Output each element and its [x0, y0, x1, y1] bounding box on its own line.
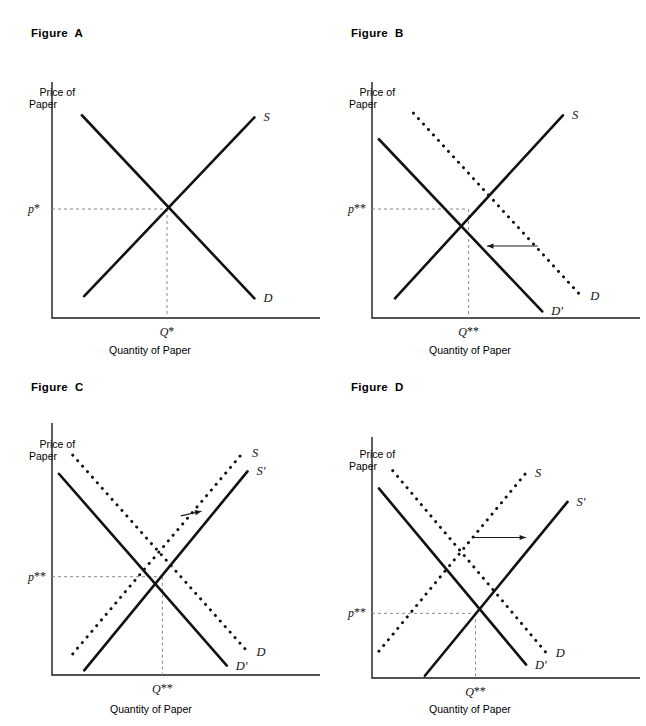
- figure-b-quantity-tick-label: Q**: [458, 324, 479, 339]
- figure-panel-a: Figure A Price ofPaper SDp*Q* Quantity o…: [0, 0, 323, 363]
- figure-b-curve-label-supply: S: [572, 108, 579, 122]
- figure-c-curve-supply-shifted: [84, 471, 247, 670]
- figure-b-curve-label-demand-shifted: D': [550, 304, 563, 318]
- figure-a-price-tick-label: p*: [27, 201, 40, 216]
- figure-d-plot: SS'DD'p**Q**: [323, 363, 646, 726]
- figure-c-curve-label-supply-shifted: S': [257, 464, 266, 478]
- figure-c-price-tick-label: p**: [27, 569, 46, 584]
- figure-b-curve-supply: [395, 115, 563, 298]
- figure-b-shift-arrow-head-0: [487, 243, 494, 248]
- figure-b-plot: SDD'p**Q**: [323, 0, 646, 363]
- figure-a-plot: SDp*Q*: [0, 0, 323, 363]
- figure-panel-b: Figure B Price ofPaper SDD'p**Q** Quanti…: [323, 0, 646, 363]
- figure-d-curve-supply-original: [379, 473, 526, 651]
- figure-c-plot: SS'DD'p**Q**: [0, 363, 323, 726]
- figure-a-curve-label-demand: D: [262, 291, 272, 305]
- figure-c-curve-label-supply-original: S: [252, 446, 259, 460]
- figure-panel-d: Figure D Price ofPaper SS'DD'p**Q** Quan…: [323, 363, 646, 726]
- figure-a-x-axis-label: Quantity of Paper: [109, 344, 191, 356]
- figure-panel-c: Figure C Price ofPaper SS'DD'p**Q** Quan…: [0, 363, 323, 726]
- figure-a-quantity-tick-label: Q*: [160, 324, 175, 339]
- figure-b-curve-demand-original: [413, 113, 581, 296]
- figure-c-shift-arrow-head-0: [195, 510, 202, 515]
- figure-d-price-tick-label: p**: [347, 605, 366, 620]
- figure-c-curve-label-demand-original: D: [256, 645, 266, 659]
- figure-b-axes: [372, 82, 640, 318]
- figure-c-curve-demand-original: [73, 455, 248, 652]
- figure-d-quantity-tick-label: Q**: [465, 684, 486, 699]
- figure-d-shift-arrow-head-0: [520, 535, 527, 540]
- figure-a-curve-label-supply: S: [263, 110, 270, 124]
- figure-d-curve-demand-shifted: [379, 488, 526, 664]
- figure-c-quantity-tick-label: Q**: [152, 681, 173, 696]
- figure-sheet: Figure A Price ofPaper SDp*Q* Quantity o…: [0, 0, 646, 726]
- figure-d-x-axis-label: Quantity of Paper: [429, 703, 511, 715]
- figure-d-curve-label-demand-shifted: D': [534, 658, 547, 672]
- figure-d-curve-demand-original: [393, 471, 547, 654]
- figure-c-curve-label-demand-shifted: D': [235, 659, 248, 673]
- figure-d-curve-label-demand-original: D: [555, 646, 565, 660]
- figure-d-curve-label-supply-shifted: S': [577, 495, 586, 509]
- figure-b-x-axis-label: Quantity of Paper: [429, 344, 511, 356]
- figure-a-axes: [52, 82, 320, 318]
- figure-c-x-axis-label: Quantity of Paper: [110, 703, 192, 715]
- figure-c-axes: [52, 423, 320, 675]
- figure-d-curve-supply-shifted: [425, 502, 568, 676]
- figure-b-price-tick-label: p**: [347, 201, 366, 216]
- figure-d-curve-label-supply-original: S: [535, 466, 542, 480]
- figure-b-curve-label-demand-original: D: [589, 289, 599, 303]
